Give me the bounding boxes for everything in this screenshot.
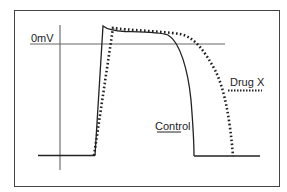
drug-x-label: Drug X — [230, 76, 264, 88]
control-label: Control — [155, 120, 190, 132]
drug-x-curve — [94, 28, 233, 156]
diagram-canvas — [0, 0, 287, 192]
control-curve — [95, 26, 194, 156]
zero-mv-label: 0mV — [31, 32, 54, 44]
figure-border — [15, 11, 280, 187]
